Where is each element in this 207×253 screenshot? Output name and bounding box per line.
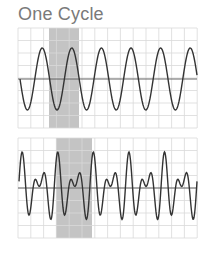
charts-canvas bbox=[0, 0, 207, 253]
complex-wave-chart bbox=[18, 138, 197, 238]
sine-wave-chart bbox=[18, 28, 197, 128]
